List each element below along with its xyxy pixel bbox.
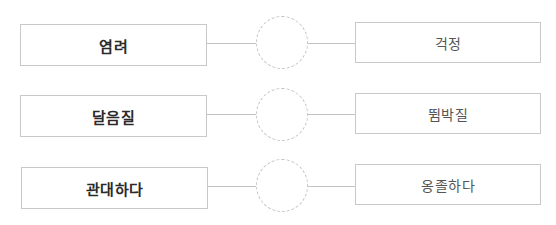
left-word: 염려 — [99, 35, 128, 56]
left-word-box: 관대하다 — [21, 167, 208, 209]
left-word-box: 염려 — [20, 24, 207, 66]
right-word: 옹졸하다 — [421, 175, 475, 195]
connector-line — [207, 43, 256, 44]
right-word: 걱정 — [435, 33, 462, 53]
right-word-box: 옹졸하다 — [355, 164, 541, 205]
connector-line — [207, 114, 256, 115]
answer-circle[interactable] — [256, 88, 308, 141]
connector-line — [308, 186, 355, 187]
left-word-box: 달음질 — [20, 95, 207, 137]
answer-circle[interactable] — [256, 159, 308, 212]
left-word: 달음질 — [92, 106, 136, 127]
left-word: 관대하다 — [86, 178, 144, 199]
answer-circle[interactable] — [256, 16, 308, 69]
right-word-box: 뜀박질 — [355, 93, 541, 134]
connector-line — [208, 186, 256, 187]
right-word-box: 걱정 — [355, 22, 541, 63]
right-word: 뜀박질 — [428, 104, 469, 124]
connector-line — [308, 43, 355, 44]
connector-line — [308, 114, 355, 115]
